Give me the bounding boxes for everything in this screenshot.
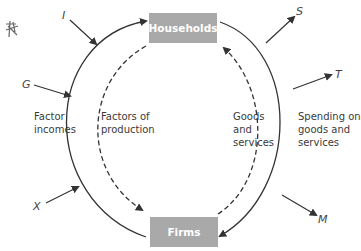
firms-node: Firms	[150, 217, 218, 247]
spending-label: Spending on goods and services	[298, 110, 361, 149]
spending-line-2: goods and	[298, 123, 361, 136]
spending-line-1: Spending on	[298, 110, 361, 123]
factor-incomes-line-1: Factor	[34, 110, 76, 123]
taxes-label: T	[335, 68, 342, 81]
publisher-logo-icon	[4, 20, 20, 38]
investment-label: I	[62, 9, 65, 22]
taxes-withdrawal-arrow	[293, 75, 331, 89]
savings-withdrawal-arrow	[266, 17, 294, 43]
government-injection-arrow	[34, 85, 70, 96]
investment-injection-arrow	[70, 20, 96, 44]
factors-of-production-line-1: Factors of	[101, 110, 155, 123]
goods-services-line-2: and	[233, 123, 274, 136]
goods-services-line-3: services	[233, 136, 274, 149]
factors-of-production-line-2: production	[101, 123, 155, 136]
exports-injection-arrow	[46, 187, 78, 203]
imports-withdrawal-arrow	[282, 195, 316, 215]
exports-label: X	[33, 200, 41, 213]
government-label: G	[22, 78, 31, 91]
factor-incomes-label: Factor incomes	[34, 110, 76, 136]
factor-incomes-line-2: incomes	[34, 123, 76, 136]
savings-label: S	[296, 5, 303, 18]
factors-of-production-label: Factors of production	[101, 110, 155, 136]
goods-services-line-1: Goods	[233, 110, 274, 123]
spending-line-3: services	[298, 136, 361, 149]
imports-label: M	[318, 213, 328, 226]
goods-services-label: Goods and services	[233, 110, 274, 149]
households-node: Households	[149, 13, 217, 43]
